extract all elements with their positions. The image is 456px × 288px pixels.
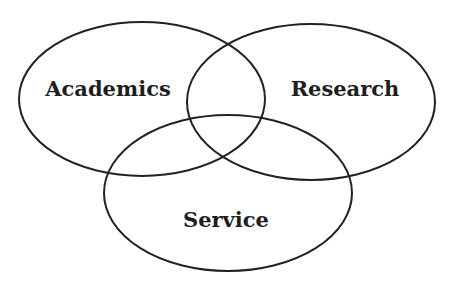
- research-ellipse: [187, 24, 435, 180]
- venn-diagram: Academics Research Service: [0, 0, 456, 288]
- research-label: Research: [291, 76, 400, 101]
- academics-label: Academics: [44, 76, 171, 101]
- service-ellipse: [104, 115, 352, 271]
- service-label: Service: [183, 207, 269, 232]
